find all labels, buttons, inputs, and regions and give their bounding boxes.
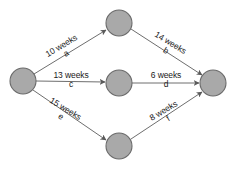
edge-label-c: 13 weeks c <box>53 71 88 89</box>
node-end[interactable] <box>200 70 226 96</box>
nodes-layer <box>10 10 226 159</box>
node-bottom[interactable] <box>106 133 132 159</box>
edge-label-d: 6 weeks d <box>151 71 181 89</box>
network-diagram: 10 weeks a 14 weeks b 13 weeks c 6 weeks… <box>0 0 234 169</box>
node-start[interactable] <box>10 68 36 94</box>
diagram-canvas <box>0 0 234 169</box>
edge-c-activity: c <box>53 80 88 89</box>
node-top[interactable] <box>106 10 132 36</box>
node-middle[interactable] <box>106 70 132 96</box>
edge-d-activity: d <box>151 80 181 89</box>
